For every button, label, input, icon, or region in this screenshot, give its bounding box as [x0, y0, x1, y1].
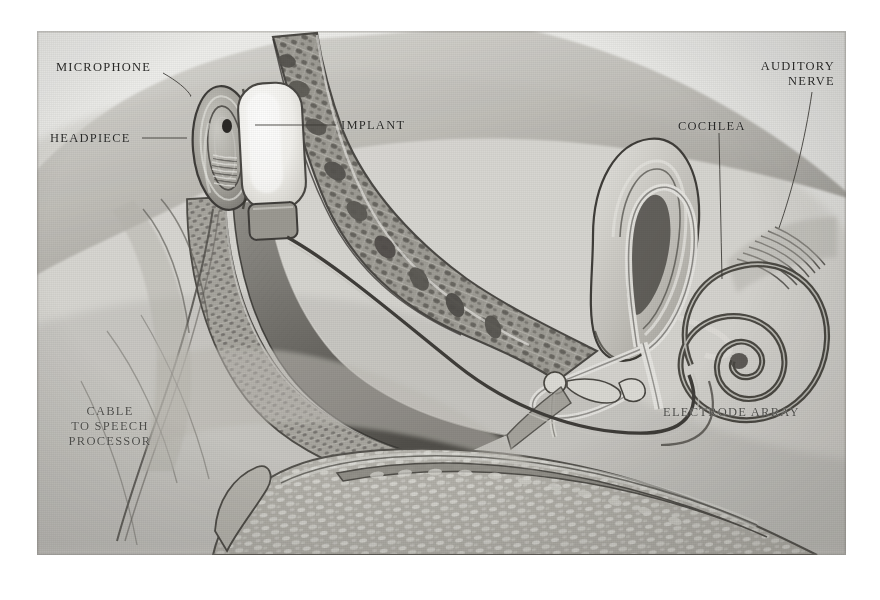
label-implant: IMPLANT [341, 118, 405, 133]
label-cochlea: COCHLEA [678, 119, 746, 134]
label-auditory-nerve: AUDITORY NERVE [761, 59, 835, 89]
anatomy-drawing [37, 31, 846, 555]
illustration-plate [37, 31, 846, 555]
label-cable-to-speech-processor: CABLE TO SPEECH PROCESSOR [45, 404, 175, 449]
label-microphone: MICROPHONE [56, 60, 151, 75]
screenshot-root: MICROPHONE HEADPIECE IMPLANT COCHLEA AUD… [0, 0, 880, 600]
label-headpiece: HEADPIECE [50, 131, 131, 146]
label-electrode-array: ELECTRODE ARRAY [663, 405, 800, 420]
